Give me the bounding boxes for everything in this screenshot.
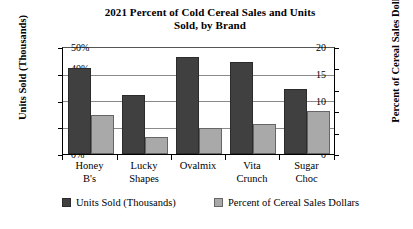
x-label-lucky-shapes-line-1: Lucky bbox=[131, 160, 158, 171]
bar-percent-sales-sugar-choc bbox=[307, 111, 330, 154]
chart-title-line-1: 2021 Percent of Cold Cereal Sales and Un… bbox=[105, 6, 316, 18]
x-label-honey-bs-line-1: Honey bbox=[76, 160, 104, 171]
x-label-vita-crunch-line-1: Vita bbox=[243, 160, 260, 171]
x-label-sugar-choc: Sugar Choc bbox=[279, 160, 334, 185]
plot-area: 20 15 10 5 0 50% 40% 30% bbox=[62, 47, 335, 155]
bar-percent-sales-honey-bs bbox=[91, 115, 114, 154]
y-axis-left-title: Units Sold (Thousands) bbox=[17, 5, 28, 130]
x-tick-5 bbox=[334, 155, 335, 160]
y-tick-right-10 bbox=[334, 134, 339, 135]
y-axis-right-title: Percent of Cereal Sales Dollars bbox=[390, 0, 401, 134]
legend-label-percent-sales: Percent of Cereal Sales Dollars bbox=[228, 197, 359, 208]
bar-units-sold-honey-bs bbox=[68, 68, 91, 154]
cereal-sales-bar-chart: 2021 Percent of Cold Cereal Sales and Un… bbox=[0, 0, 413, 229]
x-label-lucky-shapes-line-2: Shapes bbox=[129, 173, 159, 184]
x-label-ovalmix: Ovalmix bbox=[171, 160, 225, 173]
x-label-vita-crunch-line-2: Crunch bbox=[237, 173, 268, 184]
x-label-ovalmix-line-1: Ovalmix bbox=[180, 160, 217, 171]
x-label-vita-crunch: Vita Crunch bbox=[225, 160, 279, 185]
bar-group-vita-crunch bbox=[225, 48, 279, 154]
bar-group-sugar-choc bbox=[279, 48, 333, 154]
bar-percent-sales-ovalmix bbox=[199, 128, 222, 154]
y-tick-right-30 bbox=[334, 91, 339, 92]
bar-percent-sales-vita-crunch bbox=[253, 124, 276, 154]
x-label-honey-bs: Honey B's bbox=[62, 160, 117, 185]
legend-swatch-percent-sales-icon bbox=[214, 198, 223, 207]
y-tick-right-20 bbox=[334, 112, 339, 113]
bar-units-sold-vita-crunch bbox=[230, 62, 253, 154]
legend-label-units-sold: Units Sold (Thousands) bbox=[76, 197, 176, 208]
legend-item-percent-sales: Percent of Cereal Sales Dollars bbox=[214, 197, 359, 208]
x-label-honey-bs-line-2: B's bbox=[83, 173, 96, 184]
legend-swatch-units-sold-icon bbox=[62, 198, 71, 207]
x-label-sugar-choc-line-1: Sugar bbox=[294, 160, 319, 171]
x-label-lucky-shapes: Lucky Shapes bbox=[117, 160, 171, 185]
chart-title: 2021 Percent of Cold Cereal Sales and Un… bbox=[60, 6, 360, 32]
bar-group-honey-bs bbox=[63, 48, 117, 154]
bar-units-sold-lucky-shapes bbox=[122, 95, 145, 154]
chart-title-line-2: Sold, by Brand bbox=[174, 19, 246, 31]
bar-group-ovalmix bbox=[171, 48, 225, 154]
bar-percent-sales-lucky-shapes bbox=[145, 137, 168, 154]
chart-legend: Units Sold (Thousands) Percent of Cereal… bbox=[62, 197, 407, 213]
bar-group-lucky-shapes bbox=[117, 48, 171, 154]
x-label-sugar-choc-line-2: Choc bbox=[295, 173, 317, 184]
bar-units-sold-ovalmix bbox=[176, 57, 199, 154]
bar-units-sold-sugar-choc bbox=[284, 89, 307, 154]
y-tick-right-40 bbox=[334, 69, 339, 70]
legend-item-units-sold: Units Sold (Thousands) bbox=[62, 197, 176, 208]
y-tick-right-50 bbox=[334, 48, 339, 49]
